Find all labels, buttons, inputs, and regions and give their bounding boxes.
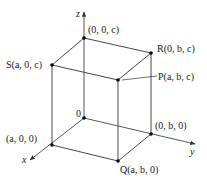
edge-top-front-left — [52, 65, 118, 80]
label-r: R(0, b, c) — [157, 43, 195, 55]
label-p: P(a, b, c) — [158, 71, 194, 83]
edge-bottom-front-right — [118, 134, 151, 161]
edge-top-back-left — [52, 38, 84, 65]
label-s: S(a, 0, c) — [6, 59, 42, 71]
origin-label: 0 — [76, 108, 81, 119]
edge-top-back-right — [84, 38, 151, 53]
label-0b0: (0, b, 0) — [155, 120, 187, 132]
edge-bottom-front-left — [52, 145, 118, 161]
point-s — [50, 63, 54, 67]
label-a00: (a, 0, 0) — [6, 133, 37, 145]
p-pointer-line — [122, 76, 157, 80]
edge-top-front-right — [118, 53, 151, 80]
z-axis-label: z — [75, 8, 80, 19]
box-edges — [52, 38, 151, 161]
point-a00 — [50, 143, 54, 147]
vertex-points — [50, 36, 153, 163]
point-p — [116, 78, 120, 82]
point-top-origin — [82, 36, 86, 40]
box-diagram: z x y 0 (0, 0, c) S(a, 0, c) R(0, b, c) … — [0, 0, 207, 185]
label-q: Q(a, b, 0) — [120, 164, 158, 176]
y-axis-label: y — [189, 146, 195, 157]
point-origin — [82, 116, 86, 120]
point-q — [116, 159, 120, 163]
point-r — [149, 51, 153, 55]
point-0b0 — [149, 132, 153, 136]
x-axis-label: x — [21, 154, 27, 165]
label-top-origin: (0, 0, c) — [88, 24, 119, 36]
x-axis — [30, 118, 84, 160]
